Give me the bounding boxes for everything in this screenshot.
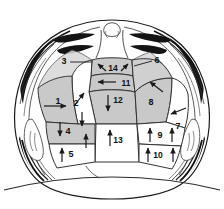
zone-label-8: 8 [148, 97, 153, 107]
head-zone-diagram: 1 2 3 4 5 6 7 8 9 10 11 12 13 14 [0, 0, 224, 209]
zone-label-1: 1 [55, 96, 60, 106]
zone-label-13: 13 [113, 135, 123, 145]
zone-label-14: 14 [108, 63, 118, 73]
zone-label-12: 12 [113, 95, 123, 105]
zone-label-5: 5 [68, 149, 73, 159]
zone-label-3: 3 [61, 56, 66, 66]
zone-label-4: 4 [65, 126, 70, 136]
zone-label-10: 10 [153, 150, 163, 160]
diagram-canvas: 1 2 3 4 5 6 7 8 9 10 11 12 13 14 [0, 0, 224, 209]
nose-tip [104, 23, 121, 37]
zone-label-9: 9 [157, 130, 162, 140]
zone-label-2: 2 [73, 98, 78, 108]
zone-label-6: 6 [154, 55, 159, 65]
zone-label-7: 7 [175, 121, 180, 131]
zone-label-11: 11 [122, 78, 131, 88]
